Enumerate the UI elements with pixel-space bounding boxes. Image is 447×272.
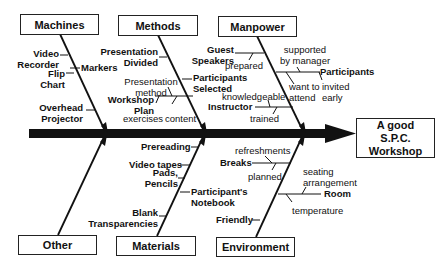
category-label: Manpower [230,21,284,33]
label-line: by manager [278,56,332,67]
category-label: Methods [135,20,180,32]
cause-video-recorder: VideoRecorder [16,49,59,70]
label-line: Participants [193,73,247,84]
category-box-machines: Machines [20,14,99,35]
label-line: early [322,93,349,104]
label-line: Participant's [191,187,248,198]
effect-line: A good [377,119,414,132]
subcause-temperature: temperature [292,206,343,217]
category-box-other: Other [18,235,97,255]
label-line: want to [289,82,320,93]
cause-participants: Participants [320,67,374,78]
label-line: Workshop [102,95,154,106]
label-line: invited [322,82,349,93]
label-line: Transparencies [86,219,158,230]
label-line: Pencils [140,179,178,190]
label-line: Divided [96,58,158,69]
category-box-materials: Materials [116,236,196,256]
subcause-supported-by-manager: supportedby manager [278,45,332,66]
subcause-trained: trained [250,114,279,125]
label-line: Guest [190,45,234,56]
cause-flip-chart: FlipChart [25,69,65,90]
subcause-content: content [165,114,196,125]
cause-instructor: Instructor [208,102,252,113]
cause-prereading: Prereading [141,142,191,153]
effect-box: A good S.P.C. Workshop [356,118,435,158]
label-line: Notebook [191,198,248,209]
cause-friendly: Friendly [216,215,253,226]
cause-room: Room [324,189,351,200]
category-label: Machines [34,19,84,31]
effect-line: Workshop [369,145,423,158]
subcause-prepared: prepared [225,61,263,72]
category-box-methods: Methods [118,15,198,36]
cause-blank-transparencies: BlankTransparencies [86,208,158,229]
label-line: attend [289,93,320,104]
cause-overhead-projector: OverheadProjector [25,103,83,124]
label-line: Video [16,49,59,60]
subcause-exercises: exercises [123,114,163,125]
label-line: Chart [25,80,65,91]
cause-pads-pencils: Pads,Pencils [140,168,178,189]
label-line: arrangement [303,178,357,189]
subcause-seating-arrangement: seatingarrangement [303,167,357,188]
subcause-refreshments: refreshments [235,146,290,157]
label-line: Presentation [122,77,180,88]
label-line: Flip [25,69,65,80]
effect-line: S.P.C. [380,132,410,145]
label-line: Presentation [96,47,158,58]
category-box-manpower: Manpower [218,16,297,37]
cause-presentation-divided: PresentationDivided [96,47,158,68]
subcause-want-to-attend: want toattend [289,82,320,103]
subcause-planned: planned [248,172,282,183]
category-label: Environment [222,241,289,253]
label-line: supported [278,45,332,56]
label-line: Pads, [140,168,178,179]
label-line: seating [303,167,357,178]
category-label: Other [43,239,72,251]
label-line: Projector [25,114,83,125]
subcause-invited-early: invitedearly [322,82,349,103]
label-line: Blank [86,208,158,219]
category-label: Materials [132,240,180,252]
category-box-environment: Environment [216,237,295,257]
label-line: Overhead [25,103,83,114]
cause-breaks: Breaks [220,158,252,169]
cause-participants-notebook: Participant'sNotebook [191,187,248,208]
